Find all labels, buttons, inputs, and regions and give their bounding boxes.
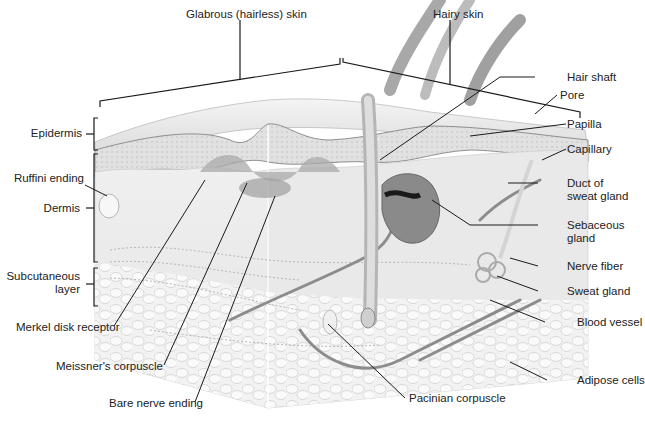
label-hairy-skin: Hairy skin xyxy=(433,8,483,21)
label-dermis: Dermis xyxy=(0,202,80,215)
label-sweat-gland: Sweat gland xyxy=(567,285,630,298)
label-hair-shaft: Hair shaft xyxy=(567,71,616,84)
label-pore: Pore xyxy=(560,89,584,102)
label-bare-nerve-ending: Bare nerve ending xyxy=(109,397,203,410)
label-adipose-cells: Adipose cells xyxy=(577,374,645,387)
label-sebaceous-gland-line1: Sebaceous xyxy=(567,219,625,232)
label-papilla: Papilla xyxy=(567,118,602,131)
label-meissners-corpuscle: Meissner's corpuscle xyxy=(56,360,163,373)
ruffini-ending xyxy=(99,194,119,218)
label-duct-of-sweat-gland-line1: Duct of xyxy=(567,177,603,190)
label-sebaceous-gland-line2: gland xyxy=(567,232,595,245)
label-capillary: Capillary xyxy=(567,143,612,156)
label-epidermis: Epidermis xyxy=(0,127,82,140)
label-nerve-fiber: Nerve fiber xyxy=(567,260,623,273)
label-ruffini-ending: Ruffini ending xyxy=(0,172,84,185)
label-duct-of-sweat-gland-line2: sweat gland xyxy=(567,190,628,203)
label-glabrous-skin: Glabrous (hairless) skin xyxy=(186,8,307,21)
label-subcutaneous-layer-line2: layer xyxy=(0,283,80,296)
skin-block xyxy=(95,99,588,408)
label-subcutaneous-layer-line1: Subcutaneous xyxy=(0,270,80,283)
label-blood-vessel: Blood vessel xyxy=(577,316,642,329)
label-merkel-disk-receptor: Merkel disk receptor xyxy=(16,321,120,334)
label-pacinian-corpuscle: Pacinian corpuscle xyxy=(409,392,506,405)
